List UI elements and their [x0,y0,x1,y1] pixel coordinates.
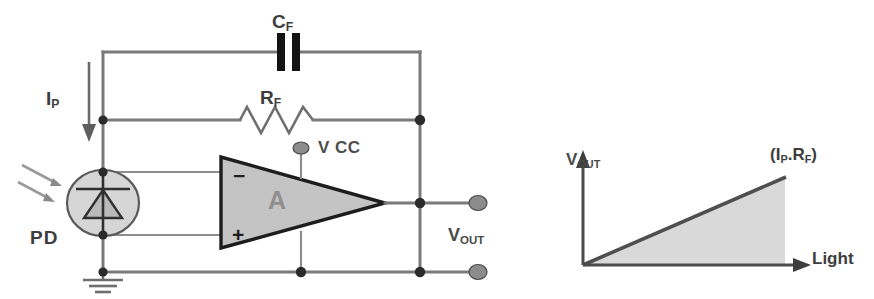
node-dot-opamp-supply-ground [296,267,306,277]
output-terminal-negative[interactable] [469,265,487,280]
light-ray-lower [18,182,48,198]
opamp-noninverting-sign: + [232,224,244,245]
node-dot-resistor-right [415,115,425,125]
opamp-triangle [221,157,385,248]
node-dot-resistor-left [98,115,107,124]
capacitor-plate-right [292,33,300,71]
opamp-inverting-sign: − [233,165,245,186]
response-plot-group [576,150,811,272]
vout-label: VOUT [448,226,484,244]
vcc-label: V CC [318,139,361,156]
plot-x-axis-arrowhead [793,258,811,272]
resistor-label: RF [260,88,281,107]
capacitor-plate-left [277,33,285,71]
opamp-gain-label: A [268,188,286,213]
photodiode-symbol [67,170,139,236]
photocurrent-label: IP [46,89,59,108]
circuit-and-plot-svg [0,0,874,299]
node-dot-ground [98,267,107,276]
node-dot-noninverting-input [98,230,107,239]
node-dot-output [415,198,425,208]
vcc-terminal-dot[interactable] [293,142,309,154]
photodiode-label: PD [30,228,58,247]
output-terminal-positive[interactable] [469,196,487,211]
resistor-branch [103,107,420,133]
plot-x-axis-label: Light [812,250,854,267]
light-ray-upper [22,165,56,183]
capacitor-branch [103,33,420,71]
capacitor-label: CF [272,12,293,31]
node-dot-ground-right [415,267,425,277]
photocurrent-arrow-group [82,62,96,142]
ip-arrow-head [82,124,96,142]
plot-annotation-label: (IP.RF) [770,146,817,163]
figure-canvas: CF RF IP V CC PD A − + VOUT VOUT (IP.RF)… [0,0,874,299]
circuit-group [18,33,487,292]
light-rays-group [18,165,62,202]
node-dot-inverting-input [98,167,107,176]
plot-y-axis-label: VOUT [566,151,600,168]
light-ray-upper-arrowhead [50,178,62,186]
light-ray-lower-arrowhead [43,193,55,202]
resistor-zigzag [240,107,313,133]
